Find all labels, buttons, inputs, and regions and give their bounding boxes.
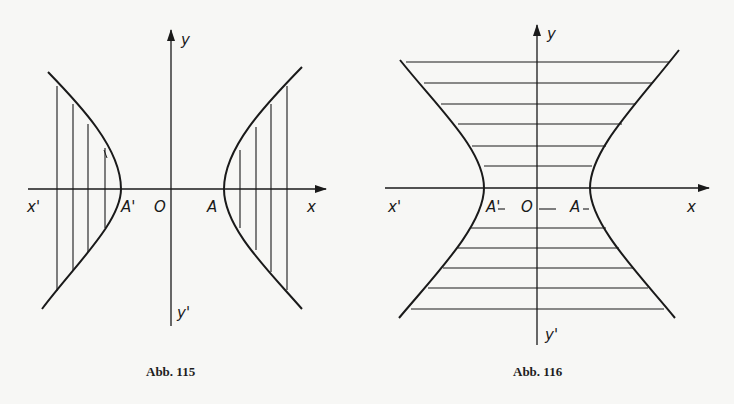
figure-116 (385, 25, 709, 345)
caption-fig-115: Abb. 115 (146, 364, 195, 380)
label-vertex-a-115: A (207, 200, 217, 215)
label-vertex-a-116: A (570, 200, 580, 215)
hyperbola-left-branch-116 (399, 60, 484, 318)
diagram-canvas (0, 0, 734, 404)
hyperbola-left-branch-115 (42, 72, 121, 309)
label-vertex-a-prime-116: A' (486, 200, 500, 215)
label-origin-116: O (521, 200, 533, 215)
vertical-hatching-right (240, 86, 287, 290)
caption-fig-116: Abb. 116 (513, 364, 562, 380)
label-x-116: x (687, 200, 696, 215)
hyperbola-right-branch-116 (590, 50, 679, 318)
label-x-115: x (307, 200, 316, 215)
label-x-prime-115: x' (27, 200, 40, 215)
label-x-prime-116: x' (388, 200, 401, 215)
label-y-prime-115: y' (177, 306, 190, 321)
hyperbola-right-branch-115 (224, 67, 302, 309)
label-y-116: y (547, 27, 556, 42)
label-y-115: y (181, 33, 190, 48)
label-origin-115: O (154, 200, 166, 215)
label-vertex-a-prime-115: A' (121, 200, 135, 215)
figure-115 (28, 30, 326, 326)
label-y-prime-116: y' (545, 328, 558, 343)
